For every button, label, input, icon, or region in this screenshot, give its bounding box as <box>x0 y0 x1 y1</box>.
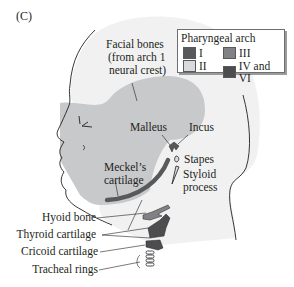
cricoid-cartilage <box>146 240 163 250</box>
label-stapes: Stapes <box>184 153 214 166</box>
legend-item-arch-3: III <box>223 47 251 59</box>
legend-title: Pharyngeal arch <box>181 32 255 44</box>
legend-label-arch-3: III <box>239 47 251 59</box>
label-styloid-1: Styloid <box>183 168 216 181</box>
label-facial-bones-1: Facial bones <box>106 38 164 51</box>
legend-label-arch-2: II <box>199 60 207 72</box>
legend-label-arch-1: I <box>199 47 203 59</box>
label-incus: Incus <box>189 121 214 134</box>
swatch-arch-3 <box>223 47 236 59</box>
legend: Pharyngeal arch I III II IV and VI <box>177 29 285 73</box>
legend-item-arch-1: I <box>183 47 203 59</box>
swatch-arch-4-6 <box>223 66 236 78</box>
legend-item-arch-2: II <box>183 60 207 72</box>
pharyngeal-arch-derivatives-diagram: (C) Facial bones (from arch 1 neural cre… <box>0 0 294 287</box>
label-meckels-1: Meckel’s <box>104 161 146 174</box>
panel-label: (C) <box>16 9 32 24</box>
label-thyroid-cartilage: Thyroid cartilage <box>10 228 96 241</box>
label-facial-bones-3: neural crest) <box>109 64 166 77</box>
label-malleus: Malleus <box>130 121 167 134</box>
label-cricoid-cartilage: Cricoid cartilage <box>12 245 98 258</box>
label-meckels-2: cartilage <box>104 174 144 187</box>
stapes <box>175 156 179 162</box>
swatch-arch-2 <box>183 60 196 72</box>
label-hyoid-bone: Hyoid bone <box>38 211 96 224</box>
legend-item-arch-4-6: IV and VI <box>223 60 284 84</box>
swatch-arch-1 <box>183 47 196 59</box>
tracheal-rings <box>146 251 154 266</box>
label-styloid-2: process <box>183 181 218 194</box>
legend-label-arch-4-6: IV and VI <box>239 60 284 84</box>
label-tracheal-rings: Tracheal rings <box>26 263 98 276</box>
label-facial-bones-2: (from arch 1 <box>108 51 165 64</box>
